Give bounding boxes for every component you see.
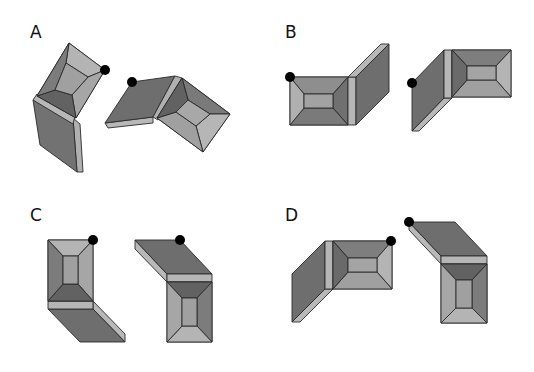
- marker-dot: [127, 77, 137, 87]
- marker-dot: [285, 72, 295, 82]
- panel-d-left-object: [292, 241, 392, 322]
- marker-dot: [404, 217, 414, 227]
- marker-dot: [386, 236, 396, 246]
- marker-dot: [88, 235, 98, 245]
- panel-c-left-object: [48, 240, 125, 342]
- marker-dot: [100, 65, 110, 75]
- panel-a-right-object: [105, 76, 230, 152]
- panel-d-right-object: [409, 222, 487, 323]
- panel-c-right-object: [135, 240, 212, 342]
- figure-canvas: [0, 0, 534, 372]
- panel-b-right-object: [412, 50, 511, 131]
- panel-b-left-object: [290, 44, 389, 125]
- panel-a-left-object: [33, 43, 105, 172]
- marker-dot: [407, 78, 417, 88]
- marker-dot: [175, 235, 185, 245]
